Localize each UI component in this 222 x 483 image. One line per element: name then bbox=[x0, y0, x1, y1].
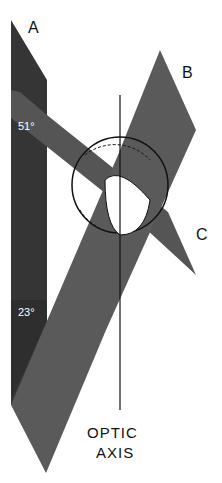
angle-lower: 23° bbox=[18, 306, 35, 318]
label-plate-a: A bbox=[28, 19, 39, 36]
label-optic: OPTIC bbox=[87, 424, 138, 441]
angle-upper: 51° bbox=[18, 120, 35, 132]
label-axis: AXIS bbox=[96, 444, 134, 461]
label-plate-c: C bbox=[196, 226, 208, 243]
optic-axis-diagram: A B C OPTIC AXIS 51° 23° bbox=[0, 0, 222, 483]
label-plate-b: B bbox=[182, 64, 193, 81]
